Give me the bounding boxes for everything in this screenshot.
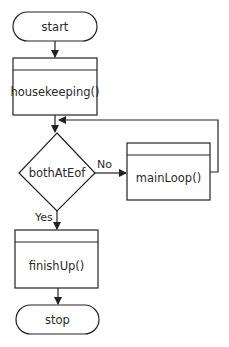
finishup-box: finishUp() — [15, 230, 98, 288]
edge-label-no: No — [97, 158, 112, 171]
finishup-label: finishUp() — [29, 259, 85, 273]
housekeeping-label: housekeeping() — [10, 85, 99, 99]
start-label: start — [42, 20, 69, 34]
stop-terminal: stop — [16, 305, 99, 334]
decision-diamond: bothAtEof — [19, 133, 95, 211]
housekeeping-box: housekeeping() — [10, 58, 99, 115]
edge-label-yes: Yes — [34, 211, 53, 224]
mainloop-box: mainLoop() — [127, 143, 210, 200]
flowchart: start housekeeping() bothAtEof No mainLo… — [0, 0, 229, 347]
mainloop-label: mainLoop() — [136, 171, 201, 185]
decision-label: bothAtEof — [29, 166, 87, 180]
stop-label: stop — [45, 313, 70, 327]
start-terminal: start — [13, 12, 97, 41]
